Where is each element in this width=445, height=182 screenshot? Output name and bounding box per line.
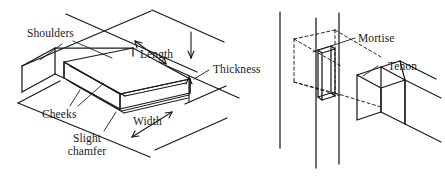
slight-chamfer-leader xyxy=(104,112,116,131)
woodworking-joint-figure: Shoulders Length Thickness Cheeks Width … xyxy=(0,0,445,182)
tenon-chamfer xyxy=(67,80,189,113)
label-slight-chamfer-line1: Slight xyxy=(56,132,118,145)
label-shoulders: Shoulders xyxy=(27,27,74,40)
cheeks-leader xyxy=(70,83,104,106)
left-stile-reference-lines xyxy=(152,10,239,150)
label-mortise: Mortise xyxy=(358,32,394,45)
label-width: Width xyxy=(133,115,162,128)
label-cheeks: Cheeks xyxy=(42,108,76,121)
label-thickness: Thickness xyxy=(213,63,261,76)
label-length: Length xyxy=(140,48,173,61)
label-tenon: Tenon xyxy=(388,60,417,73)
right-rail xyxy=(381,61,441,142)
tenon-leader xyxy=(363,66,378,76)
label-slight-chamfer-line2: chamfer xyxy=(56,145,118,158)
